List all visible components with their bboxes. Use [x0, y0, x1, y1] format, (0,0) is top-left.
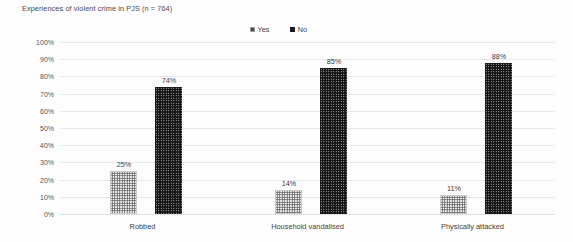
y-axis-tick-50: 50%: [40, 125, 54, 132]
y-axis-tick-30: 30%: [40, 159, 54, 166]
gridline-0: 0%: [60, 214, 555, 215]
bar-physically-attacked-yes[interactable]: [440, 195, 467, 214]
bar-group-robbed: 25% 74% Robbed: [60, 42, 225, 214]
y-axis-tick-70: 70%: [40, 90, 54, 97]
chart-title: Experiences of violent crime in PJS (n =…: [22, 4, 172, 13]
legend-item-yes[interactable]: Yes: [250, 25, 269, 34]
x-axis-label-robbed: Robbed: [63, 222, 223, 231]
y-axis-tick-90: 90%: [40, 56, 54, 63]
bar-label-physically-attacked-no: 88%: [476, 52, 522, 61]
chart-container: Experiences of violent crime in PJS (n =…: [0, 0, 573, 242]
bar-group-physically-attacked: 11% 88% Physically attacked: [390, 42, 555, 214]
y-axis-tick-40: 40%: [40, 142, 54, 149]
y-axis-tick-10: 10%: [40, 193, 54, 200]
y-axis-tick-80: 80%: [40, 73, 54, 80]
bar-label-robbed-yes: 25%: [101, 160, 147, 169]
y-axis-tick-100: 100%: [36, 39, 54, 46]
legend-label-no: No: [298, 25, 307, 34]
y-axis-tick-20: 20%: [40, 176, 54, 183]
bar-group-household-vandalised: 14% 85% Household vandalised: [225, 42, 390, 214]
bar-physically-attacked-no[interactable]: [485, 63, 512, 214]
legend-label-yes: Yes: [258, 25, 270, 34]
x-axis-label-physically-attacked: Physically attacked: [393, 222, 553, 231]
bar-household-vandalised-yes[interactable]: [275, 190, 302, 214]
legend-swatch-no-icon: [290, 27, 295, 32]
chart-legend: Yes No: [250, 23, 307, 35]
bar-label-household-vandalised-yes: 14%: [266, 179, 312, 188]
bar-label-physically-attacked-yes: 11%: [431, 184, 477, 193]
bar-household-vandalised-no[interactable]: [320, 68, 347, 214]
legend-swatch-yes-icon: [250, 27, 255, 32]
y-axis-tick-0: 0%: [44, 211, 54, 218]
bar-label-robbed-no: 74%: [146, 76, 192, 85]
bar-robbed-yes[interactable]: [110, 171, 137, 214]
legend-item-no[interactable]: No: [290, 25, 307, 34]
bar-robbed-no[interactable]: [155, 87, 182, 214]
x-axis-label-household-vandalised: Household vandalised: [228, 222, 388, 231]
plot-area: 100% 90% 80% 70% 60% 50% 40% 30% 20% 10%: [60, 42, 555, 214]
bar-label-household-vandalised-no: 85%: [311, 57, 357, 66]
y-axis-tick-60: 60%: [40, 107, 54, 114]
